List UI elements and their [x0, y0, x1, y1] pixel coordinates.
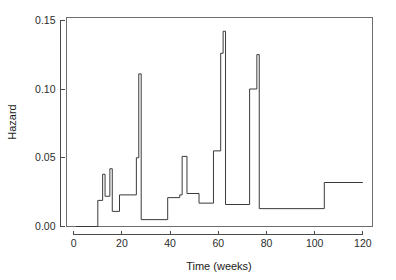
y-tick-label: 0.10 [35, 83, 56, 95]
x-tick-label: 0 [71, 237, 77, 249]
y-axis: 0.000.050.100.15 [35, 14, 64, 232]
y-tick-label: 0.15 [35, 14, 56, 26]
x-tick-label: 120 [354, 237, 372, 249]
x-tick-label: 80 [261, 237, 273, 249]
x-tick-label: 60 [212, 237, 224, 249]
x-axis-title: Time (weeks) [186, 260, 252, 272]
hazard-step-series [76, 31, 363, 226]
x-axis: 020406080100120 [71, 231, 372, 249]
y-tick-label: 0.00 [35, 220, 56, 232]
x-tick-label: 40 [164, 237, 176, 249]
hazard-step-chart: 0.000.050.100.15 020406080100120 Time (w… [0, 0, 396, 280]
chart-canvas: 0.000.050.100.15 020406080100120 Time (w… [0, 0, 396, 280]
hazard-step-path [76, 31, 363, 226]
y-tick-label: 0.05 [35, 151, 56, 163]
x-tick-label: 20 [116, 237, 128, 249]
x-tick-label: 100 [306, 237, 324, 249]
y-axis-title: Hazard [6, 104, 18, 139]
